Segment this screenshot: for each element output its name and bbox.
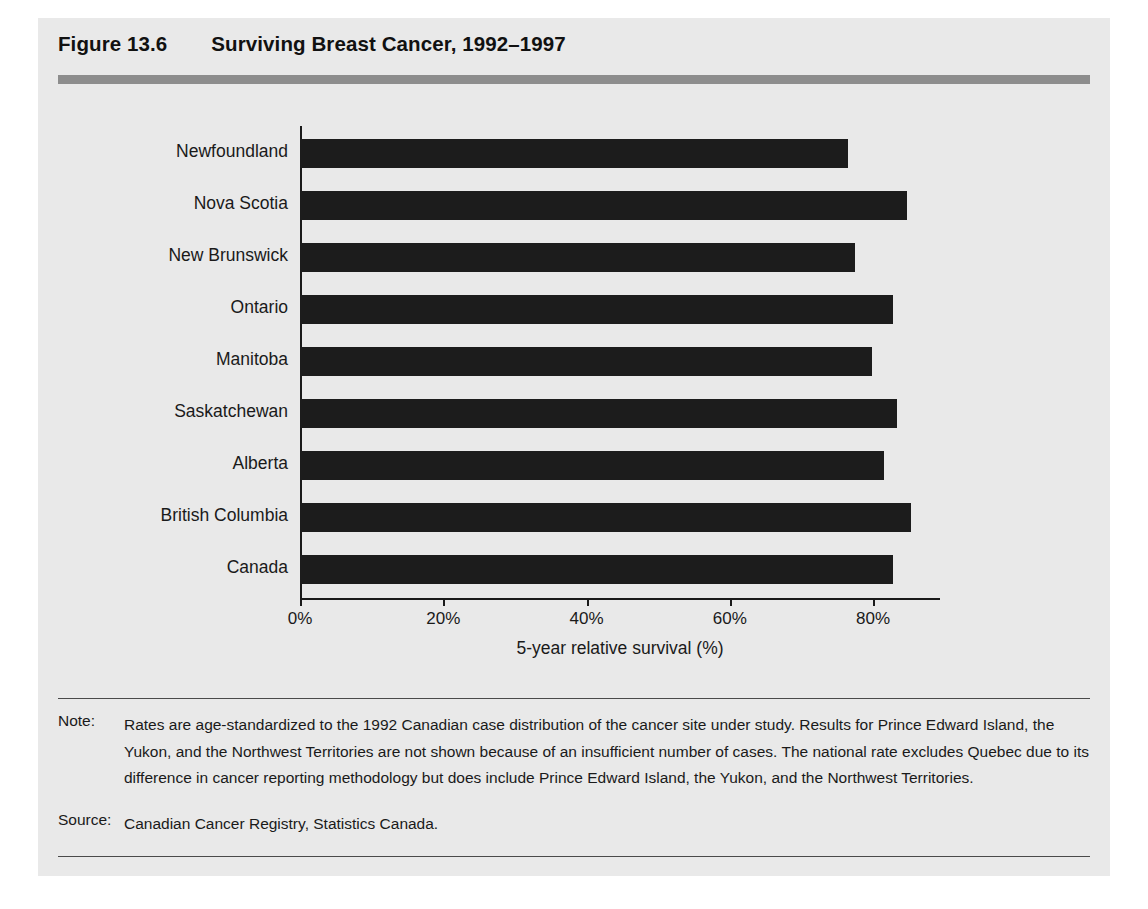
x-tick-label: 40% [569,609,603,629]
bar-row: British Columbia [300,492,940,544]
bar-row: Nova Scotia [300,180,940,232]
source-text: Canadian Cancer Registry, Statistics Can… [124,811,1090,838]
category-label: Nova Scotia [194,193,288,214]
source-label: Source: [58,811,124,838]
x-tick-mark [730,598,732,606]
x-axis-line [300,598,940,600]
source-block: Source: Canadian Cancer Registry, Statis… [58,811,1090,838]
x-axis-title: 5-year relative survival (%) [300,638,940,659]
plot-area: 0%20%40%60%80% NewfoundlandNova ScotiaNe… [300,126,1000,596]
x-tick-label: 60% [713,609,747,629]
bar [300,295,893,324]
category-label: Ontario [231,297,288,318]
bar-chart: 0%20%40%60%80% NewfoundlandNova ScotiaNe… [38,98,1110,658]
x-tick-label: 80% [856,609,890,629]
category-label: Canada [227,557,288,578]
bar-row: Alberta [300,440,940,492]
category-label: Newfoundland [176,141,288,162]
category-label: Manitoba [216,349,288,370]
bar [300,555,893,584]
bar [300,191,907,220]
figure-number: Figure 13.6 [58,32,167,56]
note-divider-top [58,698,1090,699]
category-label: New Brunswick [168,245,288,266]
bar-row: Ontario [300,284,940,336]
category-label: Alberta [233,453,288,474]
page-title: Surviving Breast Cancer, 1992–1997 [211,32,565,56]
x-tick-mark [587,598,589,606]
x-tick-mark [300,598,302,606]
title-rule-divider [58,75,1090,84]
bar-row: Canada [300,544,940,596]
x-tick-mark [873,598,875,606]
bar-row: New Brunswick [300,232,940,284]
note-text: Rates are age-standardized to the 1992 C… [124,712,1090,792]
x-tick-label: 20% [426,609,460,629]
note-divider-bottom [58,856,1090,857]
x-tick-label: 0% [288,609,313,629]
figure-panel: Figure 13.6 Surviving Breast Cancer, 199… [38,18,1110,876]
note-label: Note: [58,712,124,792]
bar [300,451,884,480]
bar [300,347,872,376]
bar [300,399,897,428]
note-block: Note: Rates are age-standardized to the … [58,712,1090,792]
x-tick-mark [443,598,445,606]
bar [300,243,855,272]
category-label: Saskatchewan [174,401,288,422]
bar [300,503,911,532]
category-label: British Columbia [161,505,288,526]
bar-row: Saskatchewan [300,388,940,440]
bar-row: Newfoundland [300,128,940,180]
bar-row: Manitoba [300,336,940,388]
bar [300,139,848,168]
figure-title-row: Figure 13.6 Surviving Breast Cancer, 199… [58,32,566,56]
